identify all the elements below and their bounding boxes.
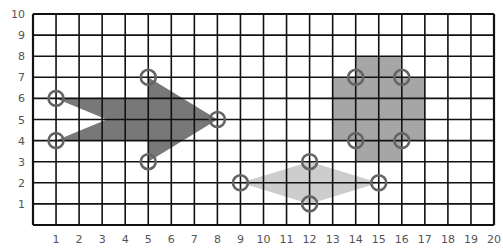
x-tick-label: 5 [145,233,152,246]
y-tick-label: 7 [18,71,25,84]
x-tick-label: 7 [191,233,198,246]
x-tick-label: 2 [76,233,83,246]
x-tick-label: 14 [349,233,363,246]
y-tick-label: 4 [18,135,25,148]
y-tick-label: 5 [18,114,25,127]
y-tick-label: 9 [18,29,25,42]
x-tick-label: 13 [326,233,340,246]
grid-lines [33,14,494,225]
y-axis-labels: 12345678910 [11,8,25,211]
coordinate-grid-diagram: 1234567891011121314151617181920 12345678… [0,0,503,251]
x-tick-label: 12 [303,233,317,246]
grid-plot: 1234567891011121314151617181920 12345678… [0,0,503,251]
x-tick-label: 1 [53,233,60,246]
x-tick-label: 15 [372,233,386,246]
x-tick-label: 18 [441,233,455,246]
x-tick-label: 10 [257,233,271,246]
x-tick-label: 17 [418,233,432,246]
x-axis-labels: 1234567891011121314151617181920 [53,233,501,246]
y-tick-label: 1 [18,198,25,211]
x-tick-label: 4 [122,233,129,246]
x-tick-label: 16 [395,233,409,246]
y-tick-label: 10 [11,8,25,21]
x-tick-label: 11 [280,233,294,246]
x-tick-label: 8 [214,233,221,246]
x-tick-label: 19 [464,233,478,246]
x-tick-label: 20 [487,233,501,246]
y-tick-label: 6 [18,92,25,105]
x-tick-label: 9 [237,233,244,246]
x-tick-label: 6 [168,233,175,246]
y-tick-label: 3 [18,156,25,169]
y-tick-label: 8 [18,50,25,63]
x-tick-label: 3 [99,233,106,246]
y-tick-label: 2 [18,177,25,190]
